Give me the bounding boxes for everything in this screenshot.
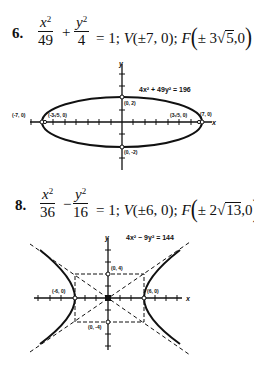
label-left-focus: (-3√5, 0) — [48, 112, 67, 118]
label-left-vertex: (-7, 0) — [12, 112, 26, 118]
hyperbola-left-branch — [40, 250, 75, 344]
problem-6: 6. x2 49 + y2 4 = 1; V(±7, 0); F(± 3√5,0… — [0, 14, 254, 54]
solution-text: = 1; V(±6, 0); F(± 2√13,0) — [96, 196, 254, 221]
axis-label-y: y — [118, 60, 124, 68]
plus-operator: + — [62, 24, 70, 41]
fraction-x-term: x2 49 — [38, 14, 53, 49]
hyperbola-equation: 4x² − 9y² = 144 — [126, 234, 174, 242]
problem-number: 8. — [15, 197, 26, 214]
fraction-y-term: y2 16 — [73, 186, 88, 221]
axis-label-y: y — [104, 234, 110, 242]
label-right-focus: (3√5, 0) — [170, 112, 188, 118]
hyperbola-graph: y x 4x² − 9y² = 144 (-6, 0) (6, 0) (0, 4… — [0, 230, 254, 383]
ellipse-equation: 4x² + 49y² = 196 — [139, 86, 191, 94]
problem-8: 8. x2 36 − y2 16 = 1; V(±6, 0); F(± 2√13… — [0, 186, 254, 226]
minus-operator: − — [63, 196, 71, 213]
label-left-vertex: (-6, 0) — [52, 288, 66, 294]
label-top: (0, 2) — [124, 100, 136, 106]
hyperbola-right-branch — [144, 250, 180, 344]
fraction-x-term: x2 36 — [40, 186, 55, 221]
problem-number: 6. — [12, 25, 23, 42]
axis-label-x: x — [185, 295, 191, 302]
label-bottom: (0, -4) — [88, 324, 102, 330]
label-right-vertex: (6, 0) — [147, 288, 159, 294]
label-right-vertex: (7, 0) — [200, 111, 212, 117]
label-bottom: (0, -2) — [124, 149, 138, 155]
label-top: (0, 4) — [111, 265, 123, 271]
ellipse-graph: y x 4x² + 49y² = 196 (-7, 0) (-3√5, 0) (… — [0, 60, 254, 172]
fraction-y-term: y2 4 — [74, 14, 89, 49]
solution-text: = 1; V(±7, 0); F(± 3√5,0) — [96, 24, 252, 49]
axis-label-x: x — [211, 119, 217, 126]
